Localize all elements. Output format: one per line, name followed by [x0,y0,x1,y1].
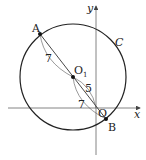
label-x-axis: x [134,108,141,121]
label-length-lower-7: 7 [78,98,85,111]
label-y-axis: y [86,2,94,15]
label-B: B [108,121,116,134]
label-O1: O1 [74,64,88,79]
label-origin: O [98,107,107,120]
label-length-O1O: 5 [85,82,92,95]
diagram-canvas: A B O1 O C x y 7 5 7 [0,0,146,160]
label-length-AO1: 7 [45,52,52,65]
label-A: A [31,22,41,35]
label-C: C [115,36,124,49]
